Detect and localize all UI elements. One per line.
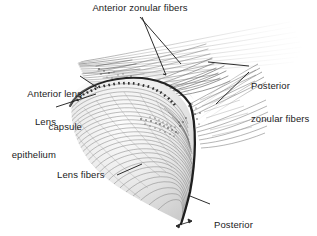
label-lens-epithelium: Lens epithelium [2, 94, 56, 182]
lens-body [66, 70, 195, 224]
lens-anatomy-figure: Anterior zonular fibers Anterior lens ca… [0, 0, 317, 236]
label-posterior-zonular-fibers-line2: zonular fibers [251, 113, 317, 124]
leader-posterior-lens-capsule [190, 196, 210, 204]
label-lens-fibers: Lens fibers [57, 169, 119, 180]
label-posterior-lens-capsule: Posterior lens capsule [214, 197, 298, 236]
label-anterior-zonular-fibers: Anterior zonular fibers [84, 2, 196, 13]
label-posterior-zonular-fibers-line1: Posterior [251, 80, 317, 91]
label-lens-epithelium-line2: epithelium [2, 149, 56, 160]
leader-posterior-zonular-2 [216, 72, 249, 104]
double-headed-arrow [176, 219, 192, 228]
label-posterior-zonular-fibers: Posterior zonular fibers [251, 58, 317, 146]
label-lens-epithelium-line1: Lens [2, 116, 56, 127]
label-posterior-lens-capsule-line1: Posterior [214, 219, 298, 230]
